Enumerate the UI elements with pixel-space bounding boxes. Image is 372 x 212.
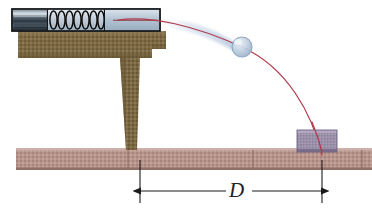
physics-diagram: D xyxy=(0,0,372,212)
dimension-label-D: D xyxy=(229,180,244,201)
range-dimension xyxy=(0,0,372,212)
